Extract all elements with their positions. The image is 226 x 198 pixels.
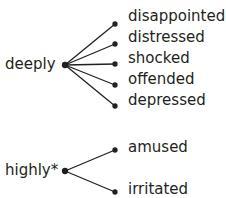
- collocate-word: amused: [128, 138, 188, 156]
- collocate-word: offended: [128, 70, 195, 88]
- collocation-diagram: deeply disappointed distressed shocked o…: [0, 0, 226, 198]
- collocate-word: disappointed: [128, 7, 225, 25]
- collocate-word: irritated: [128, 180, 188, 198]
- head-word-highly: highly*: [5, 161, 58, 179]
- collocate-word: distressed: [128, 28, 205, 46]
- collocate-word: depressed: [128, 91, 206, 109]
- head-word-deeply: deeply: [5, 55, 56, 73]
- collocate-word: shocked: [128, 49, 190, 67]
